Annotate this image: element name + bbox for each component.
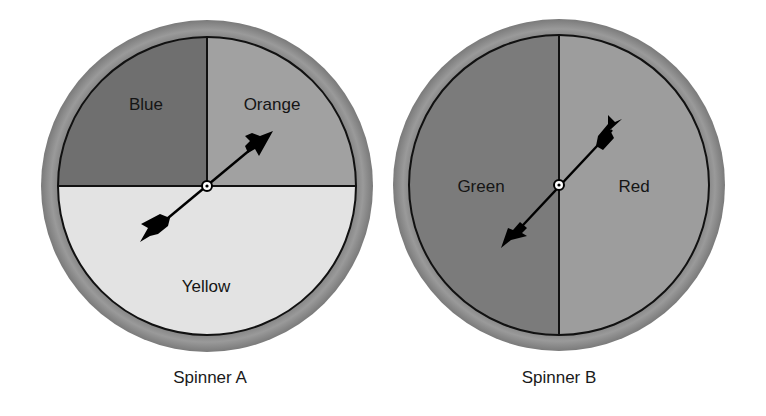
label-blue: Blue bbox=[129, 95, 163, 114]
spinner-b: Green Red bbox=[393, 19, 725, 351]
spinner-a: Blue Orange Yellow bbox=[41, 20, 373, 352]
label-orange: Orange bbox=[244, 95, 301, 114]
caption-spinner-a: Spinner A bbox=[110, 368, 310, 388]
label-yellow: Yellow bbox=[182, 277, 231, 296]
label-red: Red bbox=[618, 177, 649, 196]
caption-spinner-b: Spinner B bbox=[459, 368, 659, 388]
label-green: Green bbox=[457, 177, 504, 196]
spinners-diagram: Blue Orange Yellow Green Red bbox=[0, 0, 766, 416]
